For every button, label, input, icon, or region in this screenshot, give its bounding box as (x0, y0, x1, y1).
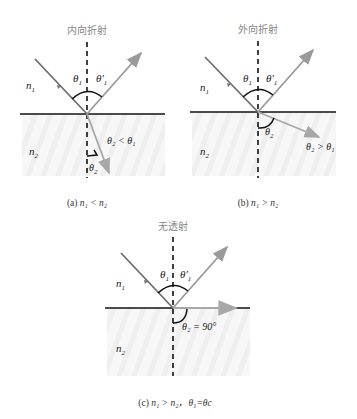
n1-label: n1 (26, 79, 35, 94)
theta2-equals-label: θ₂ = 90° (182, 321, 216, 332)
n1-label: n1 (116, 277, 125, 292)
n1-label: n1 (200, 81, 209, 96)
panel-c: 无透射 n1 n2 θ1 θ′1 θ₂ = 90° (c) n₁ > n₂，θ₁… (105, 221, 250, 409)
panel-title: 内向折射 (67, 24, 107, 36)
theta1-label: θ1 (73, 72, 82, 87)
relation-label: θ₂ > θ₁ (306, 141, 335, 152)
refraction-diagram: 内向折射 n1 n2 θ1 θ′1 θ2 θ₂ < θ₁ (a) n₁ < n₂… (0, 0, 357, 419)
panel-title: 外向折射 (238, 23, 278, 35)
panel-b: 外向折射 n1 n2 θ1 θ′1 θ2 θ₂ > θ₁ (b) n₁ > n₂ (190, 23, 336, 209)
caption-b: (b) n₁ > n₂ (238, 198, 279, 209)
medium-2-region (107, 308, 250, 376)
theta1-prime-label: θ′1 (180, 268, 191, 283)
theta1-label: θ1 (160, 268, 169, 283)
theta1-prime-label: θ′1 (96, 72, 107, 87)
theta1-label: θ1 (243, 72, 252, 87)
panel-title: 无透射 (158, 221, 188, 232)
panel-a: 内向折射 n1 n2 θ1 θ′1 θ2 θ₂ < θ₁ (a) n₁ < n₂ (20, 24, 165, 209)
relation-label: θ₂ < θ₁ (107, 135, 136, 146)
theta1-prime-label: θ′1 (266, 72, 277, 87)
caption-a: (a) n₁ < n₂ (67, 198, 108, 209)
caption-c: (c) n₁ > n₂，θ₁=θc (138, 398, 212, 409)
